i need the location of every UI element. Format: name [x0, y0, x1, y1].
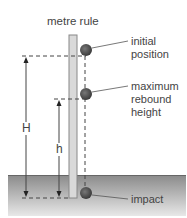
ball-impact [80, 187, 92, 199]
initial-label-line-1: initial [131, 35, 169, 48]
rebound-label-line-1: maximum [131, 80, 179, 93]
impact-label: impact [131, 193, 163, 206]
initial-leader-line [92, 41, 128, 48]
rebound-leader-line [92, 86, 128, 92]
rebound-label-line-3: height [131, 106, 179, 119]
ball-max-rebound [80, 88, 92, 100]
initial-label-line-2: position [131, 48, 169, 61]
H-label: H [21, 122, 32, 135]
initial-position-label: initial position [131, 35, 169, 61]
ball-initial-position [80, 44, 92, 56]
metre-rule-label: metre rule [47, 15, 99, 28]
rebound-label-line-2: rebound [131, 93, 179, 106]
h-label: h [55, 143, 64, 156]
metre-rule [69, 35, 77, 198]
max-rebound-label: maximum rebound height [131, 80, 179, 119]
